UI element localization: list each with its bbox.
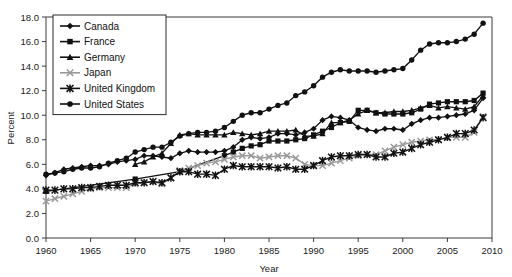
x-tick-label: 2000: [392, 245, 413, 256]
legend-label: Japan: [84, 67, 111, 78]
x-tick-label: 2010: [481, 245, 502, 256]
x-tick-label: 1995: [348, 245, 369, 256]
series-united-kingdom: [43, 114, 487, 194]
x-tick-label: 1990: [303, 245, 324, 256]
y-tick-label: 4.0: [26, 183, 39, 194]
y-tick-label: 2.0: [26, 208, 39, 219]
x-axis: 1960196519701975198019851990199520002005…: [35, 238, 502, 256]
x-tick-label: 1960: [35, 245, 56, 256]
y-tick-label: 18.0: [21, 12, 40, 23]
y-axis-title: Percent: [5, 111, 16, 144]
y-tick-label: 8.0: [26, 134, 39, 145]
x-tick-label: 2005: [437, 245, 458, 256]
x-tick-label: 1965: [80, 245, 101, 256]
series-japan: [43, 113, 486, 204]
legend-label: France: [84, 36, 116, 47]
legend-label: Germany: [84, 52, 125, 63]
y-tick-label: 10.0: [21, 110, 40, 121]
series-line: [46, 118, 483, 190]
legend-label: Canada: [84, 21, 119, 32]
line-chart: 0.02.04.06.08.010.012.014.016.018.0 1960…: [0, 0, 512, 277]
y-tick-label: 12.0: [21, 85, 40, 96]
chart-container: 0.02.04.06.08.010.012.014.016.018.0 1960…: [0, 0, 512, 277]
legend-label: United Kingdom: [84, 83, 155, 94]
legend-label: United States: [84, 99, 144, 110]
y-tick-label: 16.0: [21, 36, 40, 47]
y-axis: 0.02.04.06.08.010.012.014.016.018.0: [21, 12, 47, 244]
x-tick-label: 1975: [169, 245, 190, 256]
y-tick-label: 0.0: [26, 233, 39, 244]
x-tick-label: 1985: [258, 245, 279, 256]
y-tick-label: 6.0: [26, 159, 39, 170]
y-tick-label: 14.0: [21, 61, 40, 72]
x-tick-label: 1970: [125, 245, 146, 256]
x-tick-label: 1980: [214, 245, 235, 256]
chart-legend: CanadaFranceGermanyJapanUnited KingdomUn…: [53, 15, 166, 115]
x-axis-title: Year: [259, 263, 278, 274]
